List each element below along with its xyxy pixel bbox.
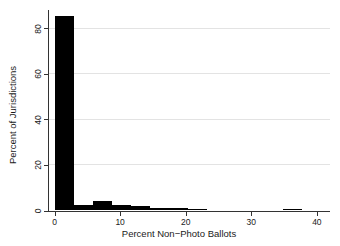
x-axis-line <box>48 211 330 212</box>
y-tick-mark <box>44 74 48 75</box>
y-tick-label: 40 <box>33 115 43 124</box>
y-gridline <box>48 28 330 29</box>
y-gridline <box>48 73 330 74</box>
x-tick-mark <box>55 212 56 216</box>
x-tick-label: 10 <box>115 217 124 227</box>
x-tick-mark <box>120 212 121 216</box>
histogram-bar <box>55 16 74 211</box>
y-tick-mark <box>44 28 48 29</box>
y-gridline <box>48 119 330 120</box>
x-tick-mark <box>317 212 318 216</box>
histogram-figure: 010203040020406080 Percent of Jurisdicti… <box>0 0 340 246</box>
y-tick-label: 0 <box>33 209 43 214</box>
x-tick-label: 20 <box>181 217 190 227</box>
x-axis-title: Percent Non−Photo Ballots <box>122 228 236 239</box>
y-tick-mark <box>44 165 48 166</box>
plot-area: 010203040020406080 <box>0 0 340 246</box>
y-tick-label: 60 <box>33 70 43 79</box>
y-axis-title: Percent of Jurisdictions <box>7 66 18 164</box>
y-tick-mark <box>44 211 48 212</box>
x-tick-label: 40 <box>312 217 321 227</box>
y-tick-mark <box>44 119 48 120</box>
y-axis-line <box>48 10 49 212</box>
y-tick-label: 80 <box>33 24 43 33</box>
x-tick-mark <box>251 212 252 216</box>
y-gridline <box>48 164 330 165</box>
x-tick-mark <box>186 212 187 216</box>
y-tick-label: 20 <box>33 161 43 170</box>
x-tick-label: 0 <box>52 217 57 227</box>
x-tick-label: 30 <box>247 217 256 227</box>
histogram-bar <box>93 201 112 211</box>
